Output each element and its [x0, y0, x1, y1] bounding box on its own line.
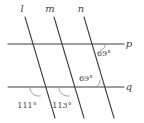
- label-line-l: l: [20, 3, 23, 14]
- arc-angle-q-n: [96, 80, 100, 88]
- label-angle-q-m: 113°: [52, 101, 71, 110]
- label-line-q: q: [126, 81, 132, 92]
- line-label-group: l m n p q: [20, 3, 132, 92]
- label-line-p: p: [126, 38, 133, 49]
- angle-label-group: 69° 69° 111° 113°: [17, 49, 111, 110]
- label-angle-q-n: 69°: [79, 74, 93, 83]
- arc-angle-q-m: [59, 87, 70, 96]
- label-line-m: m: [45, 3, 54, 14]
- line-n: [84, 17, 114, 118]
- arc-angle-q-l: [30, 87, 41, 96]
- label-line-n: n: [78, 3, 84, 14]
- geometry-figure: l m n p q 69° 69° 111° 113°: [0, 0, 144, 123]
- label-angle-p-n: 69°: [97, 49, 111, 58]
- geometry-diagram-canvas: l m n p q 69° 69° 111° 113°: [0, 0, 144, 123]
- label-angle-q-l: 111°: [17, 101, 36, 110]
